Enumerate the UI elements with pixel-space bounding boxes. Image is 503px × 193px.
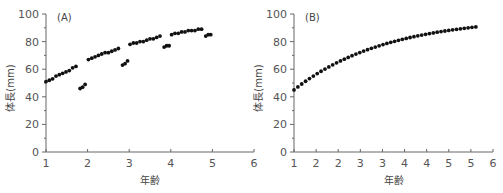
y-tick-label: 80 bbox=[25, 36, 39, 49]
data-point bbox=[67, 69, 71, 73]
data-point bbox=[209, 33, 213, 37]
x-tick-label: 2 bbox=[84, 157, 91, 170]
x-tick-label: 2 bbox=[313, 157, 320, 170]
data-point bbox=[451, 28, 455, 32]
x-tick-label: 6 bbox=[490, 157, 497, 170]
data-point bbox=[200, 27, 204, 31]
data-point bbox=[308, 77, 312, 81]
data-point bbox=[404, 36, 408, 40]
data-point bbox=[362, 49, 366, 53]
data-point bbox=[462, 26, 466, 30]
data-point bbox=[110, 49, 114, 53]
y-tick-label: 40 bbox=[273, 91, 287, 104]
panel-label: (B) bbox=[305, 12, 320, 23]
data-point bbox=[358, 51, 362, 55]
x-tick-label: 5 bbox=[209, 157, 216, 170]
data-point bbox=[107, 51, 111, 55]
data-point bbox=[97, 54, 101, 58]
data-point bbox=[173, 31, 177, 35]
data-point bbox=[116, 47, 120, 51]
data-point bbox=[155, 36, 159, 40]
data-point bbox=[342, 57, 346, 61]
data-point bbox=[420, 33, 424, 37]
data-point bbox=[83, 82, 87, 86]
data-point bbox=[158, 34, 162, 38]
x-tick-label: 4 bbox=[167, 157, 174, 170]
data-point bbox=[369, 46, 373, 50]
data-point bbox=[292, 88, 296, 92]
data-point bbox=[339, 59, 343, 63]
data-point bbox=[416, 34, 420, 38]
data-point bbox=[377, 44, 381, 48]
data-point bbox=[466, 26, 470, 30]
data-point bbox=[300, 82, 304, 86]
y-tick-label: 20 bbox=[25, 118, 39, 131]
y-tick-label: 20 bbox=[273, 118, 287, 131]
data-point bbox=[138, 40, 142, 44]
data-point bbox=[54, 74, 58, 78]
data-point bbox=[148, 37, 152, 41]
data-point bbox=[327, 65, 331, 69]
data-point bbox=[141, 40, 145, 44]
x-tick-label: 5 bbox=[467, 157, 474, 170]
data-point bbox=[131, 41, 135, 45]
data-point bbox=[167, 44, 171, 48]
y-axis-label: 体長(mm) bbox=[253, 64, 264, 111]
data-point bbox=[296, 85, 300, 89]
data-point bbox=[385, 42, 389, 46]
x-axis-label: 年齢 bbox=[384, 174, 404, 186]
data-point bbox=[100, 52, 104, 56]
data-point bbox=[193, 29, 197, 33]
x-tick-label: 2 bbox=[335, 157, 342, 170]
data-point bbox=[397, 38, 401, 42]
x-axis-label: 年齢 bbox=[140, 174, 160, 186]
data-point bbox=[435, 30, 439, 34]
data-point bbox=[439, 30, 443, 34]
data-point bbox=[428, 32, 432, 36]
chart-panel-b: 0204060801001223344556(B)年齢体長(mm) bbox=[253, 8, 497, 186]
data-point bbox=[389, 40, 393, 44]
data-point bbox=[113, 48, 117, 52]
data-point bbox=[74, 65, 78, 69]
data-point bbox=[90, 56, 94, 60]
data-point bbox=[190, 29, 194, 33]
data-point bbox=[424, 32, 428, 36]
data-point bbox=[408, 36, 412, 40]
data-point bbox=[381, 43, 385, 47]
data-point bbox=[44, 80, 48, 84]
y-tick-label: 0 bbox=[280, 146, 287, 159]
data-point bbox=[93, 55, 97, 59]
data-point bbox=[47, 78, 51, 82]
data-point bbox=[126, 59, 130, 63]
x-tick-label: 5 bbox=[445, 157, 452, 170]
data-point bbox=[51, 77, 55, 81]
y-tick-label: 80 bbox=[273, 36, 287, 49]
data-point bbox=[170, 33, 174, 37]
y-tick-label: 100 bbox=[266, 8, 287, 21]
data-point bbox=[180, 30, 184, 34]
data-point bbox=[400, 37, 404, 41]
data-point bbox=[135, 41, 139, 45]
y-axis-label: 体長(mm) bbox=[5, 64, 16, 111]
data-point bbox=[412, 35, 416, 39]
data-point bbox=[196, 27, 200, 31]
y-tick-label: 60 bbox=[273, 63, 287, 76]
data-point bbox=[183, 30, 187, 34]
data-point bbox=[64, 70, 68, 74]
data-point bbox=[474, 25, 478, 29]
data-point bbox=[311, 74, 315, 78]
data-point bbox=[87, 58, 91, 62]
data-point bbox=[447, 28, 451, 32]
data-point bbox=[373, 45, 377, 49]
data-point bbox=[331, 63, 335, 67]
data-point bbox=[335, 61, 339, 65]
data-point bbox=[103, 51, 107, 55]
data-point bbox=[304, 79, 308, 83]
data-point bbox=[186, 29, 190, 33]
data-point bbox=[319, 69, 323, 73]
x-tick-label: 4 bbox=[401, 157, 408, 170]
data-point bbox=[315, 72, 319, 76]
data-point bbox=[128, 42, 132, 46]
y-tick-label: 40 bbox=[25, 91, 39, 104]
data-point bbox=[443, 29, 447, 33]
